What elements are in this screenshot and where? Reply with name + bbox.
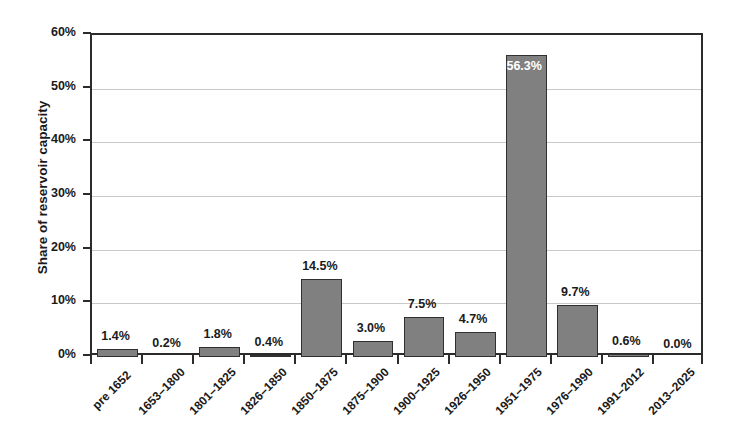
x-tick-mark xyxy=(448,355,450,364)
x-category-label: 1900–1925 xyxy=(390,368,439,417)
x-category-label: 1951–1975 xyxy=(493,368,542,417)
y-tick-label: 40% xyxy=(16,132,76,146)
x-tick-mark xyxy=(141,355,143,364)
gridline xyxy=(92,250,701,251)
x-tick-mark xyxy=(90,355,92,364)
bar xyxy=(353,341,394,357)
y-tick-label: 50% xyxy=(16,79,76,93)
x-tick-mark xyxy=(701,355,703,364)
y-tick-label: 30% xyxy=(16,186,76,200)
x-category-label: 1801–1825 xyxy=(186,368,235,417)
bar-value-label: 3.0% xyxy=(339,321,402,335)
gridline xyxy=(92,89,701,90)
x-category-label: 1826–1850 xyxy=(237,368,286,417)
x-category-label: 1653–1800 xyxy=(135,368,184,417)
bar xyxy=(608,354,649,357)
y-tick-mark xyxy=(83,193,91,195)
bar-value-label: 14.5% xyxy=(288,259,351,273)
x-category-label: 1875–1900 xyxy=(339,368,388,417)
y-tick-mark xyxy=(83,300,91,302)
x-tick-mark xyxy=(550,355,552,364)
bar-value-label: 0.4% xyxy=(237,335,300,349)
x-category-label: 1850–1875 xyxy=(288,368,337,417)
y-tick-mark xyxy=(83,247,91,249)
bar xyxy=(301,279,342,357)
x-category-label: 1991–2012 xyxy=(595,368,644,417)
bar xyxy=(404,317,445,357)
x-tick-mark xyxy=(243,355,245,364)
x-tick-mark xyxy=(192,355,194,364)
x-tick-mark xyxy=(499,355,501,364)
bar-value-label: 9.7% xyxy=(544,285,607,299)
y-tick-label: 10% xyxy=(16,293,76,307)
bar-value-label: 0.0% xyxy=(646,337,709,351)
y-tick-label: 0% xyxy=(16,347,76,361)
x-category-label: pre 1652 xyxy=(84,368,133,417)
bar xyxy=(97,349,138,357)
bar xyxy=(455,332,496,357)
chart-figure: ł ı · ıł ıłı ııł ı· ı łı·ı ı ıłı · ıł ıı… xyxy=(0,0,733,444)
x-tick-mark xyxy=(397,355,399,364)
x-tick-mark xyxy=(294,355,296,364)
x-category-label: 1976–1990 xyxy=(544,368,593,417)
bar xyxy=(250,355,291,357)
y-tick-label: 20% xyxy=(16,240,76,254)
x-tick-mark xyxy=(601,355,603,364)
bar xyxy=(199,347,240,357)
gridline xyxy=(92,142,701,143)
bar-value-label: 4.7% xyxy=(442,312,505,326)
x-category-label: 1926–1950 xyxy=(442,368,491,417)
bar xyxy=(557,305,598,357)
x-tick-mark xyxy=(345,355,347,364)
bar-value-label: 56.3% xyxy=(493,59,556,73)
y-tick-mark xyxy=(83,32,91,34)
bar-value-label: 7.5% xyxy=(391,297,454,311)
gridline xyxy=(92,196,701,197)
x-tick-mark xyxy=(652,355,654,364)
x-category-label: 2013–2025 xyxy=(646,368,695,417)
y-tick-mark xyxy=(83,86,91,88)
y-tick-label: 60% xyxy=(16,25,76,39)
y-tick-mark xyxy=(83,139,91,141)
bar xyxy=(506,55,547,357)
